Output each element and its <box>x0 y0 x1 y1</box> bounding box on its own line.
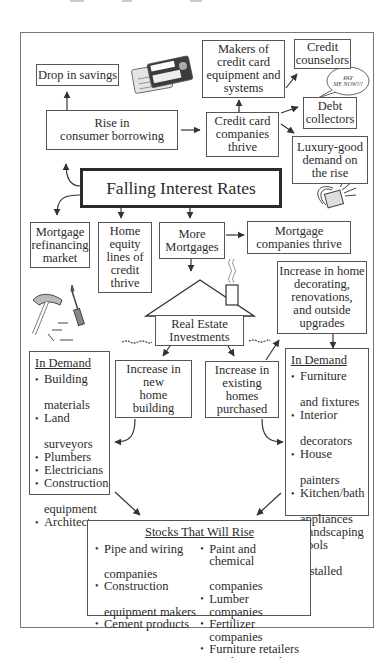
stocks-heading: Stocks That Will Rise <box>95 526 304 539</box>
diagram-title: Falling Interest Rates <box>106 182 256 195</box>
list-item: Lumber companies <box>200 593 304 618</box>
node-label: building <box>133 402 175 415</box>
in-demand-left-list: In Demand Buildingmaterials Landsurveyor… <box>29 351 110 495</box>
node-label: Mortgage <box>36 226 85 239</box>
node-label: Drop in savings <box>38 69 117 82</box>
node-new-home-building: Increase in new home building <box>115 360 192 418</box>
stocks-left-column: Pipe and wiringcompanies Constructionequ… <box>95 543 200 658</box>
node-label: demand on <box>302 154 357 167</box>
node-label: purchased <box>217 403 268 416</box>
node-label: Luxury-good <box>297 141 363 154</box>
node-makers-credit-card-equipment: Makers of credit card equipment and syst… <box>202 40 285 98</box>
list-item: Paint and chemicalcompanies <box>200 543 304 593</box>
stocks-right-column: Paint and chemicalcompanies Lumber compa… <box>200 543 304 658</box>
node-label: thrive <box>228 141 257 154</box>
node-label: thrive <box>110 277 139 290</box>
node-label: refinancing <box>32 239 89 252</box>
node-label: homes <box>226 390 259 403</box>
node-drop-in-savings: Drop in savings <box>36 64 119 86</box>
node-existing-homes: Increase in existing homes purchased <box>205 361 279 418</box>
node-label: companies thrive <box>256 238 342 251</box>
list-item: Buildingmaterials <box>35 373 105 412</box>
list-heading: In Demand <box>291 354 364 367</box>
node-mortgage-companies: Mortgage companies thrive <box>247 221 351 254</box>
list-item: Constructionequipment makers <box>95 580 200 618</box>
title-falling-interest-rates: Falling Interest Rates <box>80 168 282 208</box>
node-label: Mortgage <box>275 225 324 238</box>
node-debt-collectors: Debt collectors <box>303 97 357 129</box>
list-item: Furnitureand fixtures <box>291 370 364 409</box>
node-credit-counselors: Credit counselors <box>294 39 351 69</box>
node-luxury-good-demand: Luxury-good demand on the rise <box>292 136 368 184</box>
clipped-header-text <box>60 0 230 3</box>
node-label: upgrades <box>299 317 344 330</box>
node-label: existing <box>222 377 262 390</box>
node-real-estate-investments: Real Estate Investments <box>155 315 244 346</box>
list-item: Interiordecorators <box>291 409 364 448</box>
node-label: Increase in <box>215 364 269 377</box>
node-label: Mortgages <box>165 241 218 254</box>
node-label: More <box>178 228 205 241</box>
stocks-that-will-rise: Stocks That Will Rise Pipe and wiringcom… <box>87 520 311 616</box>
node-mortgage-refinancing: Mortgage refinancing market <box>30 222 90 268</box>
pay-me-now-bubble: PAY ME NOW!!! <box>328 68 368 94</box>
node-label: systems <box>224 82 264 95</box>
node-more-mortgages: More Mortgages <box>159 222 225 259</box>
list-item: Landsurveyors <box>35 412 105 451</box>
node-rise-consumer-borrowing: Rise in consumer borrowing <box>46 110 178 150</box>
list-item: Housepainters <box>291 448 364 487</box>
in-demand-right-list: In Demand Furnitureand fixtures Interior… <box>285 348 369 516</box>
list-item: Pipe and wiringcompanies <box>95 543 200 581</box>
node-label: counselors <box>296 54 349 67</box>
node-label: Real Estate <box>171 318 228 331</box>
list-item: Constructionequipment <box>35 477 105 516</box>
node-label: collectors <box>306 113 355 126</box>
node-home-equity: Home equity lines of credit thrive <box>98 222 152 293</box>
node-label: the rise <box>312 167 348 180</box>
list-item: Fertilizer companies <box>200 618 304 643</box>
node-home-decorating: Increase in home decorating, renovations… <box>277 261 367 334</box>
node-credit-card-companies: Credit card companies thrive <box>206 112 279 157</box>
node-label: market <box>43 252 78 265</box>
node-label: Investments <box>169 331 229 344</box>
list-item: Cement products <box>95 618 200 631</box>
list-heading: In Demand <box>35 357 105 370</box>
node-label: consumer borrowing <box>60 130 164 143</box>
bubble-text-line: ME NOW!!! <box>333 81 363 88</box>
